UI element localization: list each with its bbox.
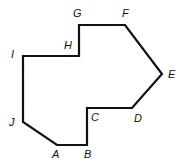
vertex-label-b: B — [84, 148, 91, 160]
polygon-diagram: A B C D E F G H I J — [0, 0, 185, 166]
vertex-label-g: G — [73, 7, 82, 19]
vertex-label-j: J — [8, 116, 15, 128]
vertex-label-i: I — [11, 48, 14, 60]
vertex-labels: A B C D E F G H I J — [8, 7, 176, 160]
vertex-label-e: E — [168, 68, 176, 80]
vertex-label-d: D — [134, 112, 142, 124]
vertex-label-c: C — [91, 111, 99, 123]
vertex-label-h: H — [64, 39, 72, 51]
polygon-outline — [23, 25, 162, 145]
vertex-label-a: A — [51, 148, 59, 160]
vertex-label-f: F — [122, 7, 130, 19]
